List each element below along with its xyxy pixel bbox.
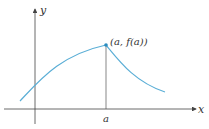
curve-left [20,45,106,101]
peak-point [104,43,108,47]
x-axis-label: x [198,103,205,116]
y-axis-label: y [39,4,47,17]
a-tick-label: a [103,113,109,124]
function-graph: y x (a, f(a)) a [0,0,209,129]
curve-right [106,45,165,92]
point-label: (a, f(a)) [110,36,148,47]
